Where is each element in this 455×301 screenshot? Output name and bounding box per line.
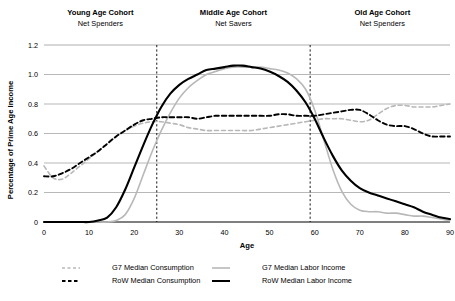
- x-axis-tick-label: 10: [85, 228, 93, 237]
- x-axis-tick-label: 0: [42, 228, 46, 237]
- x-axis-tick-label: 70: [356, 228, 364, 237]
- cohort-title: Old Age Cohort: [354, 8, 410, 17]
- x-axis-tick-label: 20: [130, 228, 138, 237]
- x-axis-tick-label: 60: [311, 228, 319, 237]
- x-axis-tick-label: 90: [446, 228, 454, 237]
- y-axis-tick-label: 1.2: [28, 41, 38, 50]
- x-axis-tick-label: 50: [266, 228, 274, 237]
- legend-label: G7 Median Labor Income: [262, 263, 345, 272]
- x-axis-tick-label: 80: [401, 228, 409, 237]
- cohort-subtitle: Net Savers: [215, 19, 252, 28]
- x-axis-tick-label: 30: [175, 228, 183, 237]
- y-axis-tick-label: 1.0: [28, 70, 38, 79]
- cohort-title: Middle Age Cohort: [200, 8, 268, 17]
- x-axis-title: Age: [240, 241, 254, 250]
- y-axis-title: Percentage of Prime Age Income: [6, 81, 15, 199]
- cohort-subtitle: Net Spenders: [360, 19, 405, 28]
- x-axis-tick-label: 40: [220, 228, 228, 237]
- y-axis-tick-label: 0: [34, 218, 38, 227]
- y-axis-tick-label: 0.2: [28, 188, 38, 197]
- y-axis-tick-label: 0.4: [28, 159, 38, 168]
- chart-container: Young Age CohortNet SpendersMiddle Age C…: [0, 0, 455, 301]
- legend-label: RoW Median Labor Income: [262, 276, 352, 285]
- age-profile-line-chart: Young Age CohortNet SpendersMiddle Age C…: [0, 0, 455, 301]
- legend-label: RoW Median Consumption: [112, 276, 200, 285]
- y-axis-tick-label: 0.8: [28, 100, 38, 109]
- y-axis-tick-label: 0.6: [28, 129, 38, 138]
- legend-label: G7 Median Consumption: [112, 263, 194, 272]
- cohort-subtitle: Net Spenders: [78, 19, 123, 28]
- cohort-title: Young Age Cohort: [67, 8, 134, 17]
